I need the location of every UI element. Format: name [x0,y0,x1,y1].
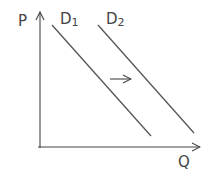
d2-label: D2 [106,12,125,28]
x-axis-label: Q [178,155,190,170]
d2-label-base: D [106,10,118,28]
d1-label-base: D [60,10,72,28]
d2-label-sub: 2 [118,16,125,29]
d1-label-sub: 1 [72,16,79,29]
y-axis-label: P [18,14,27,29]
demand-curve-d1 [52,25,151,136]
d1-label: D1 [60,12,79,28]
